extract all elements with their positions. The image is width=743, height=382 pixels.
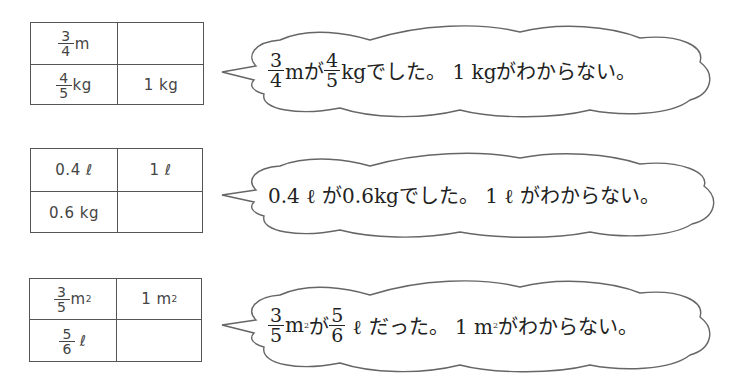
speech-bubble-1: 3 4 mが 4 5 kgでした。 1 kgがわからない。 <box>220 20 720 120</box>
table-cell-volume: 0.4 ℓ <box>31 149 117 191</box>
fraction: 3 5 <box>54 285 69 314</box>
bubble-text: 0.4 ℓ が0.6kgでした。 1 ℓ がわからない。 <box>268 172 660 216</box>
fraction: 3 4 <box>268 51 284 90</box>
ratio-table-2: 0.4 ℓ 1 ℓ 0.6 kg <box>30 148 203 233</box>
table-cell-weight: 0.6 kg <box>31 192 117 233</box>
fraction: 4 5 <box>324 51 340 90</box>
fraction: 5 6 <box>329 306 345 345</box>
table-cell-volume: 5 6 ℓ <box>30 320 116 362</box>
bubble-text: 3 5 m2が 5 6 ℓ だった。 1 m2がわからない。 <box>268 297 638 353</box>
fraction: 3 4 <box>58 29 73 58</box>
ratio-table-1: 3 4 m 4 5 kg 1 kg <box>30 22 204 105</box>
table-cell-empty <box>117 320 202 362</box>
table-cell-empty <box>118 192 203 233</box>
speech-bubble-2: 0.4 ℓ が0.6kgでした。 1 ℓ がわからない。 <box>220 148 725 240</box>
fraction: 5 6 <box>59 327 74 356</box>
fraction: 3 5 <box>268 306 284 345</box>
table-cell-area: 3 5 m2 <box>30 279 116 319</box>
table-cell-unit-volume: 1 ℓ <box>118 149 203 191</box>
table-cell-length: 3 4 m <box>31 23 117 64</box>
table-cell-empty <box>118 23 204 64</box>
table-cell-unit-weight: 1 kg <box>118 65 204 105</box>
bubble-text: 3 4 mが 4 5 kgでした。 1 kgがわからない。 <box>268 42 636 98</box>
fraction: 4 5 <box>56 71 71 100</box>
ratio-table-3: 3 5 m2 1 m2 5 6 ℓ <box>29 278 202 362</box>
table-cell-unit-area: 1 m2 <box>117 279 202 319</box>
speech-bubble-3: 3 5 m2が 5 6 ℓ だった。 1 m2がわからない。 <box>220 275 720 375</box>
table-cell-weight: 4 5 kg <box>31 65 117 105</box>
